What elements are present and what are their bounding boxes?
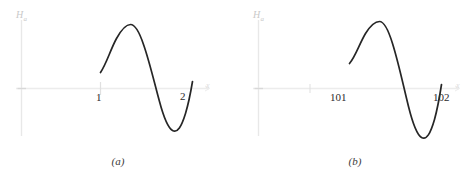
tick-label-b-101: 101 <box>330 91 347 103</box>
panel-a-plot <box>0 0 236 150</box>
tick-label-b-102: 102 <box>433 91 450 103</box>
curve-b <box>350 22 442 139</box>
panel-b-plot <box>237 0 473 150</box>
caption-a: (a) <box>0 155 236 167</box>
y-axis-label-a: Ha <box>16 9 27 23</box>
panel-b: Ha x 101 102 (b) <box>237 0 473 183</box>
panel-a: Ha x 1 2 (a) <box>0 0 236 183</box>
tick-label-a-1: 1 <box>96 91 102 103</box>
tick-label-a-2: 2 <box>180 90 186 102</box>
curve-a <box>101 25 193 132</box>
y-axis-label-b: Ha <box>253 9 264 23</box>
caption-b: (b) <box>237 155 473 167</box>
figure-root: Ha x 1 2 (a) Ha x 101 102 (b) <box>0 0 473 183</box>
x-axis-label-a: x <box>206 81 210 90</box>
x-axis-label-b: x <box>456 81 460 90</box>
